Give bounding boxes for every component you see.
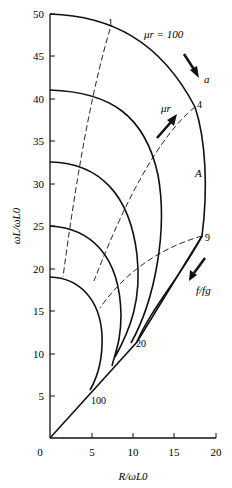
svg-text:15: 15 — [33, 305, 45, 317]
curve-4 — [50, 226, 121, 366]
svg-text:15: 15 — [169, 446, 181, 458]
svg-text:A: A — [194, 167, 202, 179]
arrow-mu-r-icon — [157, 114, 177, 138]
svg-text:35: 35 — [33, 135, 45, 147]
svg-text:100: 100 — [91, 395, 106, 406]
svg-text:1: 1 — [108, 17, 113, 28]
asymptote-line — [50, 236, 202, 438]
svg-text:40: 40 — [33, 93, 45, 105]
svg-text:μr = 100: μr = 100 — [143, 28, 184, 40]
y-axis-label: ωL/ωL0 — [10, 207, 22, 244]
curve-a — [50, 14, 205, 342]
svg-text:10: 10 — [128, 446, 140, 458]
x-tick-labels: 0 5 10 15 20 — [37, 446, 222, 458]
arrow-f-fg-icon — [189, 258, 205, 281]
svg-text:50: 50 — [33, 8, 45, 20]
curve-5 — [50, 277, 102, 390]
x-axis-label: R/ωL0 — [117, 470, 148, 482]
solid-curves — [50, 14, 205, 438]
svg-text:30: 30 — [33, 178, 45, 190]
svg-text:a: a — [204, 73, 210, 85]
curve-3 — [50, 162, 138, 357]
arrow-a-icon — [184, 54, 199, 78]
y-ticks — [50, 14, 55, 396]
svg-text:0: 0 — [37, 446, 43, 458]
dashed-9 — [100, 236, 202, 308]
svg-text:20: 20 — [33, 263, 45, 275]
svg-text:45: 45 — [33, 50, 45, 62]
curve-2 — [50, 90, 161, 343]
dashed-1 — [63, 29, 110, 277]
y-tick-labels: 5 10 15 20 25 30 35 40 45 50 — [33, 8, 45, 402]
chart: 0 5 10 15 20 5 10 15 20 25 30 35 40 45 5… — [0, 0, 232, 488]
svg-text:5: 5 — [89, 446, 95, 458]
svg-text:20: 20 — [136, 338, 146, 349]
svg-text:5: 5 — [39, 390, 45, 402]
svg-text:f/fg: f/fg — [196, 284, 211, 296]
dashed-4 — [94, 107, 195, 281]
axes — [50, 14, 216, 438]
x-ticks — [92, 433, 216, 438]
svg-text:μr: μr — [160, 102, 172, 114]
svg-text:25: 25 — [33, 220, 45, 232]
svg-text:20: 20 — [211, 446, 223, 458]
svg-text:9: 9 — [205, 232, 210, 243]
svg-text:4: 4 — [197, 99, 202, 110]
svg-text:10: 10 — [33, 348, 45, 360]
annotations: 1 μr = 100 a 4 μr A 9 f/fg 20 100 — [91, 17, 211, 406]
